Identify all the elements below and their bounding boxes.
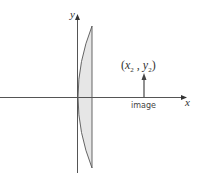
y-axis-label: y	[70, 8, 75, 20]
optics-diagram	[0, 0, 198, 192]
image-caption: image	[131, 101, 156, 110]
coord-sep: ,	[134, 58, 143, 72]
image-point-label: (x2 , y2)	[121, 58, 156, 74]
y-axis-arrowhead	[75, 14, 80, 20]
x-axis-label: x	[185, 96, 190, 108]
paren-close: )	[152, 58, 156, 72]
